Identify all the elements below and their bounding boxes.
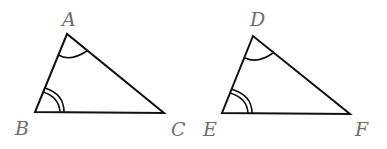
vertex-label-e: E	[202, 118, 217, 140]
triangle-def	[222, 36, 350, 114]
vertex-label-b: B	[14, 117, 29, 139]
angle-a-arc	[59, 51, 88, 58]
vertex-label-a: A	[60, 8, 76, 30]
vertex-label-c: C	[171, 118, 186, 140]
triangle-abc	[35, 34, 164, 113]
triangle-def-outline	[222, 36, 350, 114]
similar-triangles-diagram: A B C D E F	[0, 0, 387, 149]
angle-b-arc-outer	[45, 88, 64, 112]
angle-d-arc	[245, 53, 273, 60]
triangle-abc-outline	[35, 34, 164, 113]
vertex-label-d: D	[249, 8, 265, 30]
angle-e-arc-outer	[231, 89, 252, 113]
vertex-label-f: F	[354, 118, 369, 140]
